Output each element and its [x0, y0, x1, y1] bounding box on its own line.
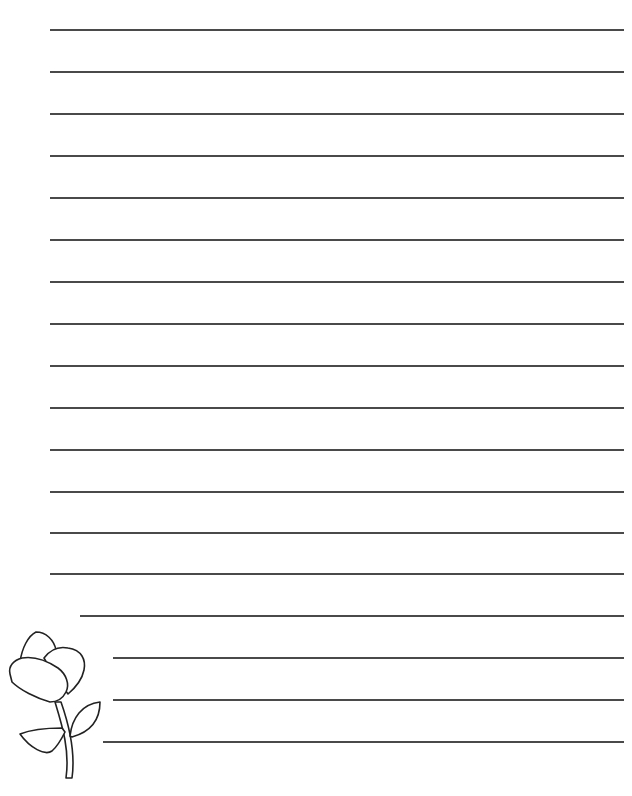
writing-line: [50, 491, 624, 493]
flower-icon: [0, 610, 110, 790]
writing-line: [80, 615, 624, 617]
writing-line: [50, 239, 624, 241]
writing-line: [50, 113, 624, 115]
writing-line: [50, 407, 624, 409]
writing-line: [50, 449, 624, 451]
writing-line: [50, 71, 624, 73]
writing-line: [50, 532, 624, 534]
writing-line: [50, 573, 624, 575]
writing-line: [50, 281, 624, 283]
writing-line: [50, 365, 624, 367]
writing-line: [50, 29, 624, 31]
writing-line: [50, 323, 624, 325]
writing-line: [50, 155, 624, 157]
writing-line: [103, 741, 624, 743]
lined-paper: [0, 0, 632, 796]
writing-line: [50, 197, 624, 199]
writing-line: [113, 657, 624, 659]
writing-line: [113, 699, 624, 701]
